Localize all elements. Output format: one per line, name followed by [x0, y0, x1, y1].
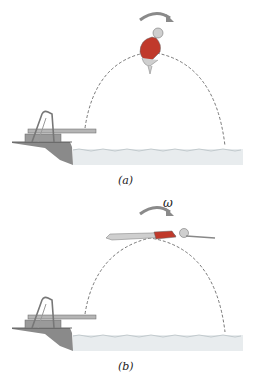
rotation-arrow	[140, 13, 170, 20]
board-base	[25, 134, 61, 142]
pool-deck	[12, 328, 73, 351]
pool-water	[73, 335, 243, 351]
diving-scene-b	[0, 186, 255, 374]
panel-a-tucked-dive: (a)	[0, 0, 255, 188]
pool-deck	[12, 142, 73, 165]
angular-velocity-symbol: ω	[163, 196, 173, 210]
panel-b-layout-dive: ω (b)	[0, 186, 255, 374]
board-base	[25, 320, 61, 328]
pool-water	[73, 149, 243, 165]
diver-tucked	[140, 28, 163, 74]
panel-b-label: (b)	[118, 360, 134, 373]
diver-layout	[106, 229, 215, 241]
diving-board	[28, 315, 96, 319]
diving-board	[28, 129, 96, 133]
trajectory-arc	[85, 52, 225, 146]
diving-scene-a	[0, 0, 255, 188]
trajectory-arc	[85, 238, 225, 332]
